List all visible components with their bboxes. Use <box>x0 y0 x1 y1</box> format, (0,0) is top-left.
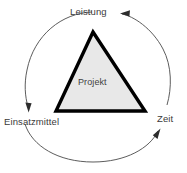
project-triangle-diagram: Leistung Einsatzmittel Zeit Projekt <box>0 0 187 173</box>
project-triangle-shape <box>56 32 145 111</box>
corner-label-einsatzmittel: Einsatzmittel <box>4 117 59 127</box>
corner-label-leistung: Leistung <box>70 7 107 17</box>
arc-bottom-segment <box>25 124 158 162</box>
arrowhead-einsatzmittel-icon <box>25 103 31 113</box>
corner-label-zeit: Zeit <box>157 114 173 124</box>
arrowhead-leistung-icon <box>120 10 130 16</box>
triangle-center-label: Projekt <box>78 78 107 87</box>
